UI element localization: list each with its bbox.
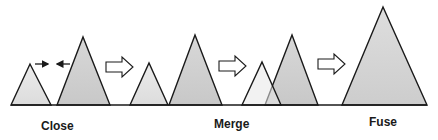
peak-fusion-diagram: Close Merge Fuse xyxy=(0,0,438,140)
close-small-peak xyxy=(11,64,51,105)
stage-label-merge: Merge xyxy=(214,117,249,131)
merge-small-peak xyxy=(130,63,168,105)
transition-arrow-2-icon xyxy=(219,56,246,76)
stage-label-close: Close xyxy=(41,119,74,133)
peaks-group xyxy=(11,7,427,105)
fused-peak xyxy=(342,7,427,105)
stage-label-fuse: Fuse xyxy=(369,115,397,129)
transition-arrow-1-icon xyxy=(106,57,133,77)
transition-arrows-group xyxy=(106,54,345,77)
close-large-peak xyxy=(57,37,110,105)
transition-arrow-3-icon xyxy=(318,54,345,74)
merge-large-peak xyxy=(169,35,222,105)
